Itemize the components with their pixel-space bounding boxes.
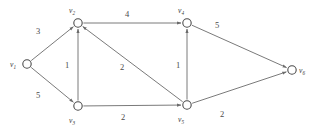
graph-node <box>183 101 191 109</box>
graph-node <box>183 19 191 27</box>
edge-weight-label: 4 <box>125 9 130 19</box>
edge-weight-label: 2 <box>121 112 125 122</box>
graph-node <box>288 66 296 74</box>
node-labels-layer: v1v2v3v4v5v6 <box>10 6 305 126</box>
nodes-layer <box>23 19 296 110</box>
edges-layer <box>31 23 286 106</box>
graph-figure: 351421252 v1v2v3v4v5v6 <box>0 0 317 132</box>
node-label: v5 <box>178 115 184 125</box>
edge-weight-label: 5 <box>215 20 219 30</box>
node-label: v2 <box>69 6 75 16</box>
graph-edge <box>192 25 287 67</box>
node-label: v6 <box>299 66 305 76</box>
edge-weights-layer: 351421252 <box>36 9 224 122</box>
edge-weight-label: 2 <box>220 109 224 119</box>
node-label: v1 <box>10 60 16 70</box>
node-label: v4 <box>178 6 184 16</box>
graph-edge <box>192 72 286 103</box>
edge-weight-label: 1 <box>176 60 180 70</box>
node-label: v3 <box>69 116 75 126</box>
graph-node <box>74 19 82 27</box>
edge-weight-label: 5 <box>36 90 40 100</box>
graph-canvas: 351421252 v1v2v3v4v5v6 <box>0 0 317 132</box>
edge-weight-label: 3 <box>36 26 40 36</box>
edge-weight-label: 1 <box>65 60 69 70</box>
graph-node <box>23 60 31 68</box>
graph-edge <box>83 27 183 102</box>
edge-weight-label: 2 <box>120 62 124 72</box>
graph-edge <box>83 105 181 106</box>
graph-node <box>74 102 82 110</box>
